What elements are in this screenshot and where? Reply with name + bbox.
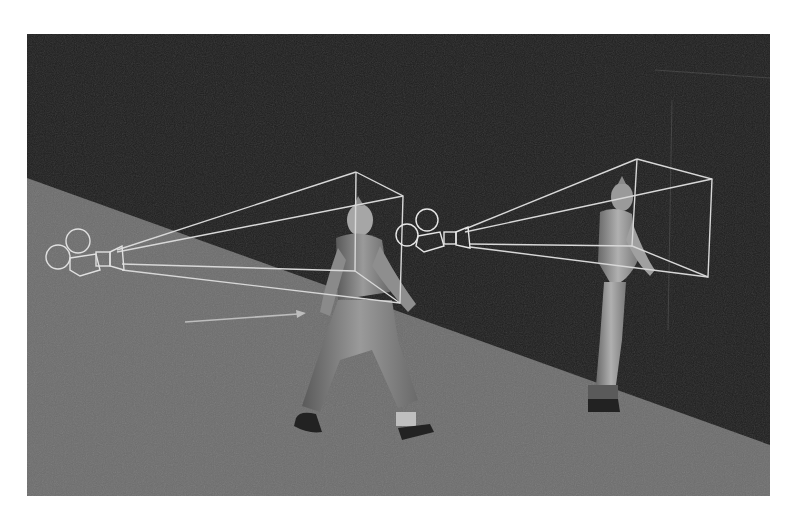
scene-render (0, 0, 800, 524)
